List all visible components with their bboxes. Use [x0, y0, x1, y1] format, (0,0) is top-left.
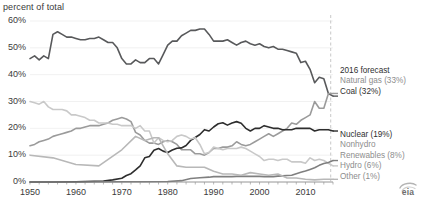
y-axis-tick-label: 20% — [0, 122, 26, 132]
chart-root: U.S. electricity generation by source (1… — [0, 0, 425, 205]
x-axis-tick-label: 1970 — [102, 187, 142, 197]
x-axis-tick-label: 1960 — [56, 187, 96, 197]
legend-other: Other (1%) — [340, 172, 405, 182]
legend-nuclear: Nuclear (19%) — [340, 130, 405, 140]
legend-coal: Coal (32%) — [340, 87, 406, 97]
y-axis-tick-label: 0% — [0, 176, 26, 186]
series-line-hydro — [30, 102, 333, 166]
y-axis-tick-label: 50% — [0, 42, 26, 52]
x-axis-tick-label: 1980 — [148, 187, 188, 197]
legend-forecast-label: 2016 forecast — [340, 66, 406, 76]
legend-hydro: Hydro (6%) — [340, 161, 405, 171]
x-axis-tick-label: 2010 — [285, 187, 325, 197]
legend-nonhydro-renewables-line2: Renewables (8%) — [340, 151, 405, 161]
series-line-natural-gas — [30, 93, 333, 155]
x-axis-tick-label: 1990 — [194, 187, 234, 197]
eia-logo-text: eia — [397, 187, 419, 197]
x-axis-tick-label: 2000 — [240, 187, 280, 197]
series-line-nuclear — [30, 122, 333, 182]
y-axis-tick-label: 10% — [0, 149, 26, 159]
series-line-coal — [30, 29, 333, 96]
y-axis-tick-label: 30% — [0, 96, 26, 106]
legend-nonhydro-renewables-line1: Nonhydro — [340, 140, 405, 150]
legend-top-group: 2016 forecast Natural gas (33%) Coal (32… — [340, 66, 406, 97]
legend-bottom-group: Nuclear (19%) Nonhydro Renewables (8%) H… — [340, 130, 405, 182]
y-axis-tick-label: 40% — [0, 69, 26, 79]
series-line-other — [30, 136, 333, 179]
y-axis-tick-label: 60% — [0, 15, 26, 25]
legend-natural-gas: Natural gas (33%) — [340, 76, 406, 86]
x-axis-tick-label: 1950 — [10, 187, 50, 197]
